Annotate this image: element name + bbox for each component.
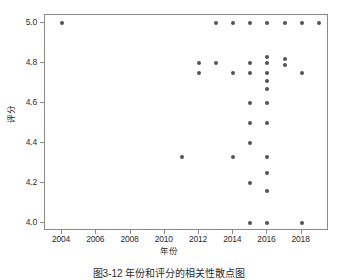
x-axis-tick-label: 2016 — [257, 234, 275, 244]
y-axis-tick-label: 4.6 — [26, 97, 37, 107]
x-axis-tick-label: 2004 — [52, 234, 70, 244]
data-point — [265, 101, 269, 105]
y-axis-tick-mark — [40, 222, 44, 223]
data-point — [197, 71, 201, 75]
y-axis-tick-label: 5.0 — [26, 17, 37, 27]
y-axis-tick-label: 4.4 — [26, 137, 37, 147]
data-point — [265, 21, 269, 25]
data-point — [214, 61, 218, 65]
data-point — [300, 71, 304, 75]
data-point — [300, 221, 304, 225]
plot-area — [44, 14, 328, 230]
data-point — [248, 141, 252, 145]
x-axis-tick-label: 2006 — [86, 234, 104, 244]
x-axis-tick-label: 2014 — [223, 234, 241, 244]
data-point — [248, 61, 252, 65]
x-axis-tick-label: 2012 — [189, 234, 207, 244]
y-axis-tick-label: 4.8 — [26, 57, 37, 67]
figure-caption: 图3-12 年份和评分的相关性散点图 — [0, 265, 338, 280]
y-axis-tick-mark — [40, 102, 44, 103]
data-point — [265, 61, 269, 65]
y-axis-tick-label: 4.0 — [26, 217, 37, 227]
data-point — [265, 189, 269, 193]
data-point — [283, 21, 287, 25]
data-point — [265, 71, 269, 75]
y-axis-tick-label: 4.2 — [26, 177, 37, 187]
data-point — [283, 63, 287, 67]
data-point — [60, 21, 64, 25]
x-axis-tick-label: 2008 — [120, 234, 138, 244]
data-point — [265, 87, 269, 91]
data-point — [265, 79, 269, 83]
data-point — [317, 21, 321, 25]
y-axis-tick-mark — [40, 22, 44, 23]
y-axis-tick-mark — [40, 62, 44, 63]
data-point — [248, 21, 252, 25]
y-axis-tick-mark — [40, 142, 44, 143]
y-axis-label: 评分 — [4, 105, 16, 123]
data-point — [248, 71, 252, 75]
data-point — [248, 121, 252, 125]
data-point — [265, 171, 269, 175]
data-point — [231, 71, 235, 75]
data-point — [197, 61, 201, 65]
x-axis-tick-label: 2018 — [292, 234, 310, 244]
data-point — [248, 101, 252, 105]
data-point — [214, 21, 218, 25]
x-axis-label: 年份 — [0, 244, 338, 256]
data-point — [231, 155, 235, 159]
data-point — [231, 21, 235, 25]
x-axis-tick-label: 2010 — [155, 234, 173, 244]
data-point — [300, 21, 304, 25]
data-point — [283, 57, 287, 61]
data-point — [248, 221, 252, 225]
data-point — [180, 155, 184, 159]
data-point — [265, 221, 269, 225]
data-point — [248, 181, 252, 185]
data-points-layer — [45, 15, 327, 229]
data-point — [265, 155, 269, 159]
data-point — [265, 121, 269, 125]
data-point — [265, 55, 269, 59]
y-axis-tick-mark — [40, 182, 44, 183]
